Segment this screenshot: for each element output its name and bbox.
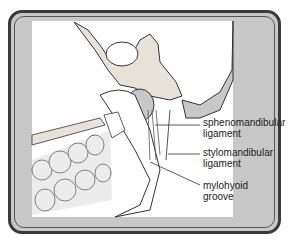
label-sphenomandibular-ligament: sphenomandibularligament	[203, 117, 285, 139]
label-stylomandibular-ligament: stylomandibularligament	[203, 147, 273, 169]
label-mylohyoid-groove: mylohyoidgroove	[203, 180, 248, 202]
